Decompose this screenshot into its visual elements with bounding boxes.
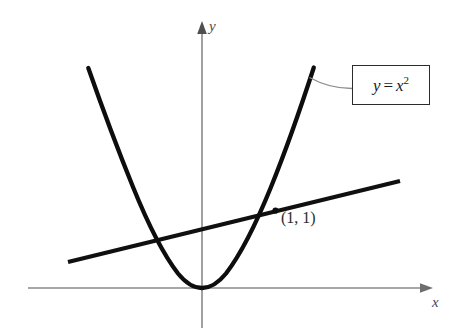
- point-marker: [272, 207, 278, 213]
- figure-canvas: [0, 0, 457, 334]
- secant-line: [68, 181, 400, 262]
- parabola-curve: [88, 68, 313, 289]
- equation-callout-box: y=x2: [352, 65, 430, 105]
- x-axis-arrowhead: [420, 283, 433, 293]
- equation-text: y=x2: [373, 74, 409, 96]
- math-figure: y x (1, 1) y=x2: [0, 0, 457, 334]
- y-axis-arrowhead: [197, 21, 207, 34]
- y-axis-label: y: [209, 18, 216, 35]
- equation-leader-line: [310, 78, 353, 89]
- equation-rhs-base: x: [396, 76, 404, 95]
- x-axis-label: x: [432, 294, 439, 311]
- point-coordinate-label: (1, 1): [281, 209, 316, 227]
- equation-operator: =: [383, 76, 393, 95]
- equation-lhs: y: [373, 76, 381, 95]
- equation-rhs-exponent: 2: [404, 74, 410, 86]
